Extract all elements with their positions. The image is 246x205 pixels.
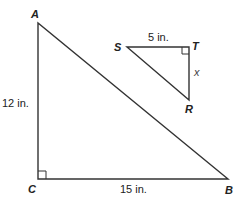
triangle-str — [127, 47, 189, 100]
vertex-label-a: A — [30, 8, 39, 20]
vertex-label-t: T — [192, 40, 200, 52]
right-angle-marker-t — [182, 47, 189, 54]
side-label-cb: 15 in. — [120, 183, 147, 195]
vertex-label-c: C — [28, 183, 37, 195]
side-label-ac: 12 in. — [2, 97, 29, 109]
side-label-tr: x — [193, 66, 200, 78]
vertex-label-s: S — [114, 41, 122, 53]
large-triangle: A C B 12 in. 15 in. — [2, 8, 233, 196]
right-angle-marker-c — [38, 171, 46, 179]
similar-triangles-diagram: A C B 12 in. 15 in. S T R 5 in. x — [0, 0, 246, 205]
small-triangle: S T R 5 in. x — [114, 31, 200, 115]
vertex-label-r: R — [185, 103, 193, 115]
side-label-st: 5 in. — [148, 31, 169, 43]
vertex-label-b: B — [225, 184, 233, 196]
